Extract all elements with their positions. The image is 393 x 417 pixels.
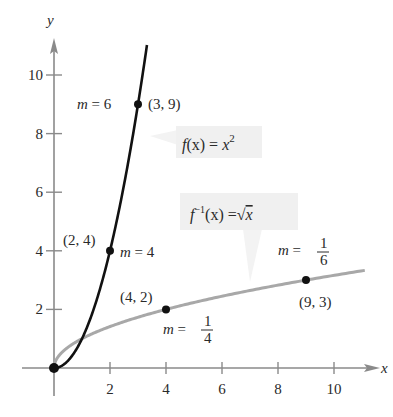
x-tick-label: 4 xyxy=(162,381,170,397)
slope-label-m4: m = 4 xyxy=(120,244,155,260)
f-function-label: f(x) = x2 xyxy=(182,132,235,154)
svg-text:6: 6 xyxy=(320,252,328,268)
svg-text:m =: m = xyxy=(163,321,186,337)
f-label-pointer xyxy=(150,130,178,145)
finv-label-pointer xyxy=(243,229,262,282)
y-tick-label: 4 xyxy=(36,243,44,259)
x-tick-label: 8 xyxy=(274,381,282,397)
svg-text:m =: m = xyxy=(278,242,301,258)
svg-text:1: 1 xyxy=(204,313,212,329)
y-axis-label: y xyxy=(45,12,54,28)
point-label-2-4: (2, 4) xyxy=(63,232,96,249)
svg-text:1: 1 xyxy=(320,235,328,251)
point-label-3-9: (3, 9) xyxy=(148,96,181,113)
slope-label-m-sixth: m = 1 6 xyxy=(278,235,329,268)
data-point xyxy=(134,100,142,108)
y-tick-label: 10 xyxy=(28,67,43,83)
slope-label-m6: m = 6 xyxy=(77,96,112,112)
data-point xyxy=(162,305,170,313)
y-tick-label: 6 xyxy=(36,184,44,200)
point-label-4-2: (4, 2) xyxy=(120,289,153,306)
y-tick-label: 8 xyxy=(36,126,44,142)
data-point xyxy=(302,276,310,284)
svg-text:4: 4 xyxy=(204,330,212,346)
x-tick-label: 6 xyxy=(218,381,226,397)
y-tick-label: 2 xyxy=(36,301,44,317)
x-tick-label: 2 xyxy=(106,381,114,397)
x-axis-label: x xyxy=(380,360,388,376)
data-point xyxy=(49,363,59,373)
data-point xyxy=(106,247,114,255)
point-label-9-3: (9, 3) xyxy=(299,294,332,311)
slope-label-m-quarter: m = 1 4 xyxy=(163,313,213,346)
function-inverse-chart: 246810246810 y x f(x) = x2 f−1(x) =√x m … xyxy=(0,0,393,417)
x-tick-label: 10 xyxy=(327,381,342,397)
